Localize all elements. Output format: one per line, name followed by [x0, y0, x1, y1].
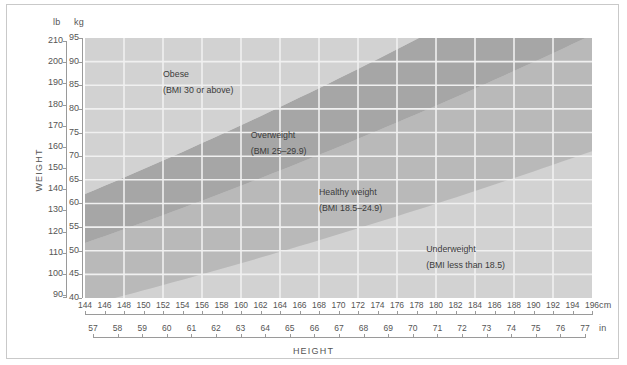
x-tick-mark-in	[142, 334, 143, 338]
x-tick-mark-cm	[495, 311, 496, 315]
x-axis-unit-in: in	[599, 323, 606, 333]
x-tick-mark-in	[93, 334, 94, 338]
x-tick-label-in: 75	[523, 323, 549, 333]
y-tick-label-lb: 120	[39, 226, 63, 236]
band-label-healthy-weight-sub: (BMI 18.5–24.9)	[319, 200, 382, 216]
x-tick-mark-in	[511, 334, 512, 338]
x-tick-mark-in	[191, 334, 192, 338]
y-tick-mark-kg	[78, 274, 82, 275]
y-tick-mark-kg	[78, 251, 82, 252]
y-tick-label-lb: 140	[39, 183, 63, 193]
x-tick-mark-in	[388, 334, 389, 338]
x-tick-label-in: 68	[351, 323, 377, 333]
x-tick-mark-cm	[105, 311, 106, 315]
x-tick-mark-cm	[261, 311, 262, 315]
y-tick-label-lb: 170	[39, 120, 63, 130]
y-tick-label-lb: 200	[39, 56, 63, 66]
y-tick-mark-lb	[63, 210, 67, 211]
band-label-obese-sub: (BMI 30 or above)	[163, 82, 233, 98]
bmi-bands-svg	[85, 38, 592, 298]
x-tick-mark-cm	[183, 311, 184, 315]
y-tick-label-lb: 100	[39, 268, 63, 278]
y-tick-mark-lb	[63, 147, 67, 148]
x-tick-mark-cm	[339, 311, 340, 315]
x-tick-mark-cm	[124, 311, 125, 315]
x-tick-label-in: 65	[277, 323, 303, 333]
x-tick-mark-in	[339, 334, 340, 338]
x-tick-label-in: 63	[228, 323, 254, 333]
x-tick-label-in: 70	[400, 323, 426, 333]
band-label-overweight-sub: (BMI 25–29.9)	[251, 143, 307, 159]
x-tick-mark-cm	[475, 311, 476, 315]
x-tick-mark-cm	[456, 311, 457, 315]
x-tick-mark-cm	[319, 311, 320, 315]
y-tick-mark-kg	[78, 203, 82, 204]
y-tick-mark-lb	[63, 83, 67, 84]
x-tick-label-in: 77	[572, 323, 598, 333]
y-tick-mark-lb	[63, 189, 67, 190]
x-tick-label-in: 71	[424, 323, 450, 333]
y-tick-mark-kg	[78, 85, 82, 86]
band-label-obese: Obese (BMI 30 or above)	[163, 66, 233, 98]
band-label-healthy-weight-title: Healthy weight	[319, 187, 377, 197]
x-tick-label-in: 62	[203, 323, 229, 333]
x-tick-label-in: 64	[252, 323, 278, 333]
y-tick-label-lb: 210	[39, 35, 63, 45]
x-tick-mark-cm	[534, 311, 535, 315]
y-tick-mark-kg	[78, 133, 82, 134]
x-tick-mark-in	[487, 334, 488, 338]
y-tick-mark-lb	[63, 295, 67, 296]
band-label-underweight-title: Underweight	[426, 244, 475, 254]
x-tick-label-in: 73	[474, 323, 500, 333]
x-tick-label-cm: 196	[579, 300, 605, 310]
y-tick-mark-lb	[63, 105, 67, 106]
y-axis-line-kg	[82, 38, 83, 298]
x-tick-label-in: 61	[178, 323, 204, 333]
x-tick-label-in: 57	[80, 323, 106, 333]
x-tick-mark-in	[314, 334, 315, 338]
y-axis-unit-lb: lb	[53, 17, 60, 27]
chart-frame: lb kg cm in WEIGHT HEIGHT 21020019018017…	[6, 4, 619, 359]
x-tick-mark-cm	[397, 311, 398, 315]
x-tick-mark-in	[536, 334, 537, 338]
y-tick-mark-lb	[63, 253, 67, 254]
x-tick-mark-in	[118, 334, 119, 338]
band-label-overweight: Overweight (BMI 25–29.9)	[251, 127, 307, 159]
x-tick-label-in: 69	[375, 323, 401, 333]
y-tick-label-lb: 130	[39, 204, 63, 214]
x-tick-mark-cm	[241, 311, 242, 315]
x-tick-label-in: 76	[547, 323, 573, 333]
y-axis-cap-top-lb	[63, 41, 67, 42]
y-tick-label-lb: 190	[39, 77, 63, 87]
x-tick-mark-cm	[514, 311, 515, 315]
x-tick-mark-cm	[592, 311, 593, 315]
y-axis-cap-bottom-lb	[63, 297, 67, 298]
y-tick-mark-kg	[78, 227, 82, 228]
x-tick-label-in: 58	[105, 323, 131, 333]
x-tick-label-in: 72	[449, 323, 475, 333]
x-tick-mark-cm	[417, 311, 418, 315]
x-tick-mark-cm	[85, 311, 86, 315]
y-tick-label-lb: 180	[39, 99, 63, 109]
x-tick-mark-in	[437, 334, 438, 338]
y-tick-mark-kg	[78, 62, 82, 63]
x-tick-mark-cm	[378, 311, 379, 315]
x-tick-mark-in	[413, 334, 414, 338]
x-tick-mark-in	[241, 334, 242, 338]
y-tick-label-lb: 90	[39, 289, 63, 299]
y-tick-mark-kg	[78, 38, 82, 39]
y-axis-line-lb	[66, 41, 67, 298]
x-tick-mark-cm	[436, 311, 437, 315]
x-tick-mark-in	[216, 334, 217, 338]
y-tick-mark-lb	[63, 274, 67, 275]
y-tick-mark-lb	[63, 62, 67, 63]
x-tick-mark-cm	[573, 311, 574, 315]
x-tick-mark-cm	[163, 311, 164, 315]
x-tick-label-in: 60	[154, 323, 180, 333]
band-label-underweight-sub: (BMI less than 18.5)	[426, 257, 505, 273]
y-tick-label-lb: 160	[39, 141, 63, 151]
bmi-plot-area: Obese (BMI 30 or above) Overweight (BMI …	[85, 38, 592, 298]
y-axis-unit-kg: kg	[74, 17, 84, 27]
x-tick-mark-in	[290, 334, 291, 338]
x-tick-mark-cm	[144, 311, 145, 315]
